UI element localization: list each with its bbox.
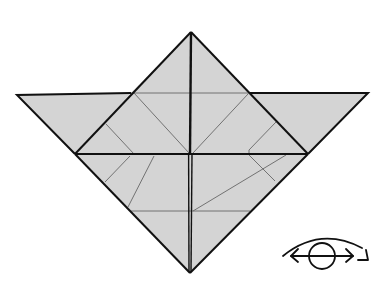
paper-shape [17,32,368,273]
diagram-canvas [0,0,392,301]
center-line-lower-right [191,154,192,272]
center-line-upper [190,32,191,154]
turn-over-icon [283,239,368,269]
arrow-curve-head-icon [358,250,368,260]
origami-diagram: origami-fold-step [0,0,392,301]
